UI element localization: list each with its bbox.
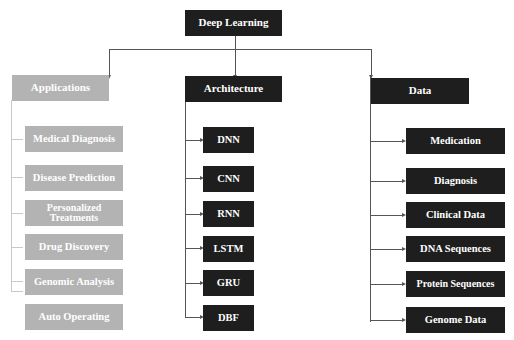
architecture-node-lstm: LSTM xyxy=(203,236,254,262)
node-label: Genome Data xyxy=(425,314,487,325)
connector-line xyxy=(11,213,23,214)
connector-line xyxy=(11,177,23,178)
data-node-dna-sequences: DNA Sequences xyxy=(406,236,505,262)
data-node-genome-data: Genome Data xyxy=(406,307,505,333)
node-label: Clinical Data xyxy=(426,209,485,220)
architecture-spine-line xyxy=(185,101,186,318)
architecture-drop-line xyxy=(235,49,236,75)
connector-line xyxy=(370,215,403,216)
data-spine-line xyxy=(370,76,371,322)
architecture-node-cnn: CNN xyxy=(203,166,254,192)
node-label: Drug Discovery xyxy=(39,241,109,252)
applications-drop-line xyxy=(109,49,110,75)
connector-line xyxy=(11,281,23,282)
node-label: Diagnosis xyxy=(434,175,477,186)
data-node-diagnosis: Diagnosis xyxy=(406,168,505,194)
node-label: LSTM xyxy=(214,243,244,254)
category-label: Architecture xyxy=(204,83,263,95)
connector-line xyxy=(11,139,23,140)
node-label: Personalized Treatments xyxy=(39,203,109,224)
data-node-protein-sequences: Protein Sequences xyxy=(406,271,505,297)
application-node-drug-discovery: Drug Discovery xyxy=(25,234,123,260)
connector-line xyxy=(185,283,201,284)
root-node-label: Deep Learning xyxy=(199,17,269,29)
connector-line xyxy=(185,248,201,249)
node-label: GRU xyxy=(217,277,240,288)
node-label: RNN xyxy=(217,208,240,219)
node-label: DNN xyxy=(217,134,240,145)
application-node-personalized-treatments: Personalized Treatments xyxy=(25,200,123,226)
root-node-deep-learning: Deep Learning xyxy=(185,10,282,36)
node-label: DBF xyxy=(218,312,239,323)
node-label: Genomic Analysis xyxy=(34,276,114,287)
application-node-auto-operating: Auto Operating xyxy=(25,304,123,330)
node-label: Protein Sequences xyxy=(417,279,495,290)
architecture-node-rnn: RNN xyxy=(203,201,254,227)
application-node-genomic-analysis: Genomic Analysis xyxy=(25,269,123,295)
node-label: Medication xyxy=(430,135,481,146)
node-label: Auto Operating xyxy=(39,311,110,322)
architecture-node-gru: GRU xyxy=(203,270,254,296)
connector-line xyxy=(370,284,403,285)
root-stem-line xyxy=(235,36,236,50)
connector-line xyxy=(185,140,201,141)
root-horizontal-line xyxy=(109,49,371,50)
applications-spine-line xyxy=(11,100,12,291)
connector-line xyxy=(370,141,403,142)
architecture-node-dnn: DNN xyxy=(203,127,254,153)
node-label: CNN xyxy=(217,173,240,184)
node-label: Disease Prediction xyxy=(33,172,115,183)
connector-line xyxy=(11,291,23,292)
data-node-clinical-data: Clinical Data xyxy=(406,202,505,228)
category-node-architecture: Architecture xyxy=(185,76,282,102)
connector-line xyxy=(370,181,403,182)
category-node-applications: Applications xyxy=(12,75,109,101)
category-label: Data xyxy=(409,85,432,97)
node-label: DNA Sequences xyxy=(420,243,491,254)
connector-line xyxy=(185,214,201,215)
data-node-medication: Medication xyxy=(406,128,505,154)
category-node-data: Data xyxy=(371,78,469,104)
connector-line xyxy=(370,249,403,250)
application-node-medical-diagnosis: Medical Diagnosis xyxy=(25,126,123,152)
connector-line xyxy=(370,320,403,321)
architecture-node-dbf: DBF xyxy=(203,305,254,331)
connector-line xyxy=(185,317,201,318)
category-label: Applications xyxy=(31,82,90,94)
connector-line xyxy=(185,178,201,179)
connector-line xyxy=(11,247,23,248)
data-drop-line xyxy=(371,49,372,75)
application-node-disease-prediction: Disease Prediction xyxy=(25,165,123,191)
node-label: Medical Diagnosis xyxy=(33,133,115,144)
